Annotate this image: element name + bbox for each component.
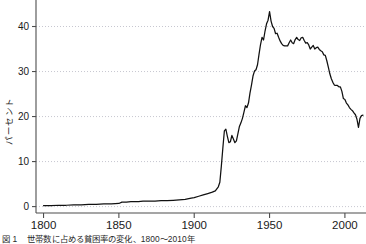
data-series-group (44, 12, 363, 206)
y-tick-marks (32, 27, 36, 207)
figure-caption-text: 世帯数に占める貧困率の変化、1800〜2010年 (27, 234, 195, 244)
gridlines-group (36, 27, 366, 207)
y-tick-label: 30 (18, 66, 30, 77)
y-axis-label-text: パーセント (2, 98, 14, 145)
x-tick-label: 2000 (332, 219, 358, 231)
y-tick-label: 0 (23, 201, 29, 212)
x-tick-label: 1950 (257, 219, 283, 231)
data-line (44, 12, 363, 206)
figure-caption-lead: 図 1 (2, 234, 17, 244)
x-tick-label: 1850 (106, 219, 132, 231)
axes-group (36, 0, 366, 213)
y-tick-label: 10 (18, 156, 30, 167)
figure-caption: 図 1世帯数に占める貧困率の変化、1800〜2010年 (2, 232, 364, 244)
y-tick-label: 40 (18, 21, 30, 32)
x-tick-labels: 18001850190019502000 (31, 219, 358, 231)
y-tick-label: 20 (18, 111, 30, 122)
x-tick-label: 1900 (181, 219, 207, 231)
x-tick-marks (44, 213, 345, 218)
y-tick-labels: 010203040 (18, 21, 30, 212)
y-axis-label: パーセント (1, 74, 15, 168)
x-tick-label: 1800 (31, 219, 57, 231)
